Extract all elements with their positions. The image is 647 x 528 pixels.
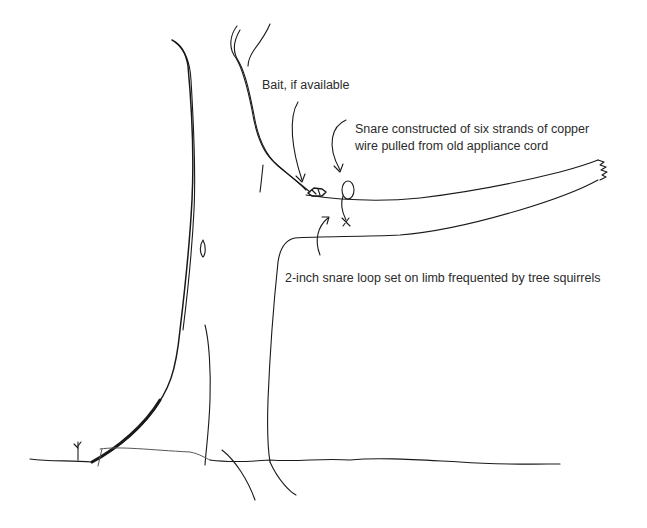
arrow-snare — [332, 120, 346, 172]
snare-loop — [342, 181, 354, 226]
snare-label-line-1: Snare constructed of six strands of copp… — [355, 121, 589, 138]
snare-loop-label: 2-inch snare loop set on limb frequented… — [285, 270, 600, 287]
snare-label-line-2: wire pulled from old appliance cord — [355, 138, 589, 155]
seedling — [74, 442, 81, 460]
bait-object — [308, 188, 326, 196]
trunk-inner-line — [205, 325, 210, 465]
arrow-loop — [317, 217, 329, 255]
trunk-knot — [200, 240, 205, 257]
limb-upper-edge — [306, 160, 598, 200]
tree-trunk-left-edge — [92, 40, 195, 462]
bait-label: Bait, if available — [262, 77, 350, 94]
limb-lower-edge — [268, 180, 598, 462]
limb-broken-end — [598, 160, 607, 180]
tree-roots — [222, 450, 296, 500]
arrow-bait — [292, 102, 305, 182]
snare-material-label: Snare constructed of six strands of copp… — [355, 121, 589, 155]
